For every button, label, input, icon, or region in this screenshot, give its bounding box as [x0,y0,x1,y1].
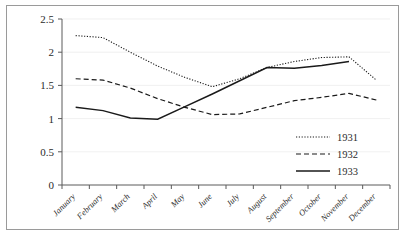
x-axis-month-label: January [50,191,77,218]
x-axis-month-label: May [168,191,187,210]
x-axis-month-label: August [244,191,269,216]
legend-label-1933: 1933 [337,166,358,177]
y-tick-label: 1.5 [40,79,54,91]
x-axis-month-label: December [345,191,378,224]
y-tick-label: 0.5 [40,146,54,158]
x-axis-month-label: November [318,191,351,224]
chart-plot-area: 00.511.522.5 JanuaryFebruaryMarchAprilMa… [0,0,407,242]
y-tick-label: 2 [49,46,55,58]
legend-label-1931: 1931 [337,132,358,143]
legend-label-1932: 1932 [337,149,358,160]
series-line-1932 [76,79,377,115]
y-axis-ticks-group [58,19,62,185]
series-line-1933 [76,62,349,120]
series-line-1931 [76,36,377,87]
x-axis-month-label: June [195,191,214,210]
data-series-group [76,36,377,120]
y-tick-label: 2.5 [40,13,54,25]
y-tick-label: 0 [49,179,55,191]
x-axis-month-label: April [139,191,160,212]
y-tick-label: 1 [49,113,55,125]
chart-container: 00.511.522.5 JanuaryFebruaryMarchAprilMa… [0,0,407,242]
x-axis-month-label: September [263,191,296,224]
chart-legend: 193119321933 [296,132,358,177]
y-axis-labels-group: 00.511.522.5 [40,13,54,191]
x-axis-ticks-group [62,185,390,189]
x-axis-month-label: February [74,191,105,222]
x-axis-labels-group: JanuaryFebruaryMarchAprilMayJuneJulyAugu… [50,191,378,224]
x-axis-month-label: March [108,191,132,215]
x-axis-month-label: July [224,191,241,208]
